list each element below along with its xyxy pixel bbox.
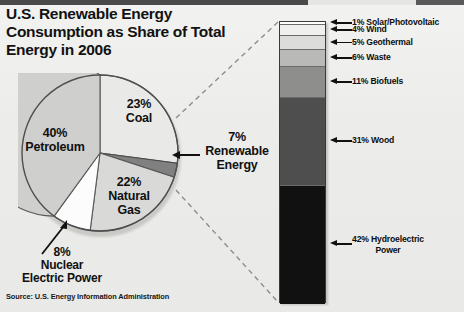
bar-callout-arrow-4 bbox=[330, 78, 352, 85]
arrow-shaft bbox=[336, 140, 352, 142]
top-band-right bbox=[416, 0, 464, 5]
bar-callout-label-3: 6% Waste bbox=[352, 52, 391, 63]
infographic-root: U.S. Renewable Energy Consumption as Sha… bbox=[0, 0, 464, 312]
bar-segment-4[interactable] bbox=[280, 67, 325, 98]
bar-callout-arrow-0 bbox=[330, 19, 352, 26]
arrow-head bbox=[330, 137, 337, 143]
pie-label-renewable-name: Renewable Energy bbox=[198, 145, 276, 173]
renewable-arrow-head bbox=[172, 151, 180, 159]
arrow-shaft bbox=[336, 22, 352, 24]
pie-label-coal: 23% Coal bbox=[108, 98, 170, 126]
pie-label-natural-gas-pct: 22% bbox=[96, 176, 162, 190]
bar-segment-6[interactable] bbox=[280, 186, 325, 304]
bar-callout-arrow-1 bbox=[330, 26, 352, 33]
arrow-head bbox=[330, 54, 337, 60]
nuclear-pointer-arrow bbox=[38, 218, 72, 256]
arrow-head bbox=[330, 19, 337, 25]
bar-callout-arrow-5 bbox=[330, 137, 352, 144]
bar-callout-label-line2: Power bbox=[352, 245, 424, 256]
arrow-head bbox=[330, 26, 337, 32]
pie-label-petroleum-pct: 40% bbox=[12, 127, 98, 141]
bar-segment-2[interactable] bbox=[280, 36, 325, 50]
bar-callout-label-2: 5% Geothermal bbox=[352, 37, 413, 48]
arrow-shaft bbox=[336, 243, 352, 245]
source-note: Source: U.S. Energy Information Administ… bbox=[6, 292, 169, 301]
pie-label-coal-pct: 23% bbox=[108, 98, 170, 112]
bar-segment-5[interactable] bbox=[280, 98, 325, 185]
connector-line-bottom bbox=[176, 190, 278, 302]
pie-label-natural-gas: 22% Natural Gas bbox=[96, 176, 162, 217]
arrow-head bbox=[330, 240, 337, 246]
bar-callout-arrow-3 bbox=[330, 54, 352, 61]
bar-segment-3[interactable] bbox=[280, 50, 325, 67]
renewable-arrow-shaft bbox=[179, 154, 200, 156]
arrow-shaft bbox=[336, 29, 352, 31]
arrow-head bbox=[330, 78, 337, 84]
bar-callout-label-4: 11% Biofuels bbox=[352, 76, 403, 87]
bar-callout-label-5: 31% Wood bbox=[352, 135, 394, 146]
arrow-shaft bbox=[336, 81, 352, 83]
pie-label-renewable: 7% Renewable Energy bbox=[198, 131, 276, 172]
arrow-shaft bbox=[336, 57, 352, 59]
bar-callout-arrow-2 bbox=[330, 39, 352, 46]
bar-callout-arrow-6 bbox=[330, 240, 352, 247]
arrow-shaft bbox=[336, 42, 352, 44]
bar-segment-1[interactable] bbox=[280, 25, 325, 36]
pie-label-petroleum: 40% Petroleum bbox=[12, 127, 98, 155]
arrow-head bbox=[330, 39, 337, 45]
pie-label-coal-name: Coal bbox=[108, 112, 170, 126]
top-band-middle bbox=[308, 0, 416, 5]
pie-label-nuclear-name: Nuclear Electric Power bbox=[2, 259, 122, 285]
bar-callout-label-1: 4% Wind bbox=[352, 24, 387, 35]
bar-callout-label-6: 42% HydroelectricPower bbox=[352, 234, 424, 255]
page-title: U.S. Renewable Energy Consumption as Sha… bbox=[6, 5, 232, 59]
stacked-bar-chart bbox=[279, 21, 326, 303]
renewable-pointer-arrow bbox=[172, 151, 200, 159]
pie-label-natural-gas-name: Natural Gas bbox=[96, 190, 162, 218]
pie-label-renewable-pct: 7% bbox=[198, 131, 276, 145]
pie-label-petroleum-name: Petroleum bbox=[12, 141, 98, 155]
bar-callout-label-line1: 42% Hydroelectric bbox=[352, 234, 424, 245]
